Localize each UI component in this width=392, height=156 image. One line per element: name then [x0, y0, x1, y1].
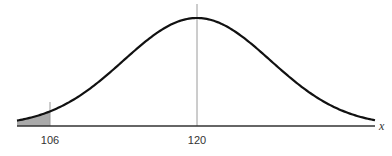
normal-distribution-chart: 106 120 x — [0, 0, 392, 156]
normal-curve — [17, 18, 375, 121]
x-axis-label: x — [378, 119, 385, 133]
tick-label-106: 106 — [41, 134, 59, 146]
tick-label-120: 120 — [188, 134, 206, 146]
